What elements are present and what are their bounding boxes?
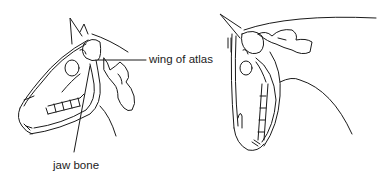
left-neck-crest bbox=[92, 34, 128, 52]
right-muzzle bbox=[234, 128, 264, 150]
right-ear bbox=[220, 14, 241, 38]
left-jaw-inner bbox=[34, 64, 94, 128]
label-wing-of-atlas: wing of atlas bbox=[149, 54, 213, 66]
right-face-line-inner bbox=[235, 36, 238, 126]
right-forelock bbox=[228, 38, 231, 52]
left-eye-socket bbox=[65, 60, 79, 76]
right-atlas-detail bbox=[278, 38, 286, 40]
left-atlas-vertebra bbox=[104, 58, 135, 111]
horse-anatomy-diagram bbox=[0, 0, 391, 181]
right-nostril bbox=[238, 113, 242, 128]
right-poll-curl bbox=[243, 50, 248, 55]
right-teeth bbox=[258, 84, 268, 140]
right-skull-poll bbox=[242, 31, 264, 53]
left-teeth bbox=[46, 94, 84, 114]
right-neck-crest bbox=[244, 17, 376, 30]
left-skull-poll bbox=[82, 39, 100, 60]
left-ear-front bbox=[80, 24, 88, 34]
left-incisors bbox=[24, 124, 32, 130]
right-horse-head bbox=[220, 14, 376, 150]
left-throat bbox=[100, 106, 116, 136]
right-throat-neck bbox=[280, 78, 352, 134]
left-atlas-detail bbox=[118, 74, 122, 84]
left-horse-head bbox=[18, 18, 146, 152]
label-jaw-bone: jaw bone bbox=[53, 160, 99, 172]
left-facial-crest bbox=[62, 74, 80, 92]
right-eye-socket bbox=[240, 61, 252, 75]
right-incisors bbox=[252, 140, 260, 146]
right-face-line-outer bbox=[231, 34, 234, 128]
right-atlas-vertebra bbox=[258, 30, 312, 54]
